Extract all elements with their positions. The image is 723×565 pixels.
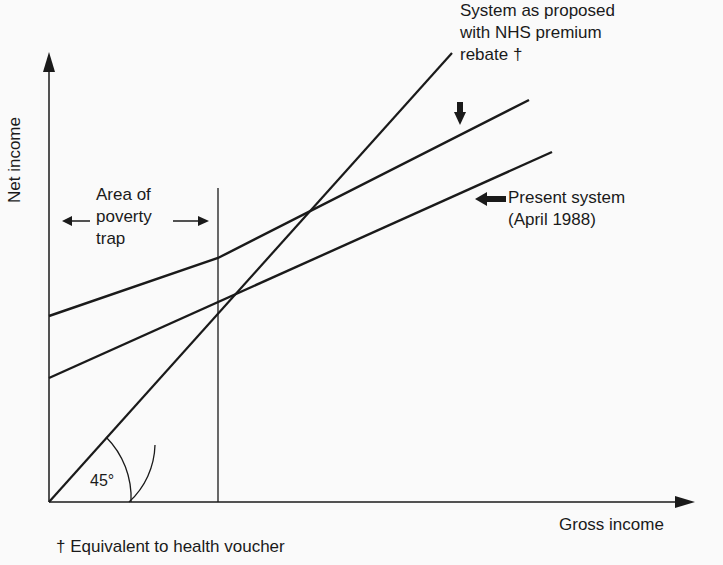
y-axis-label: Net income (4, 83, 26, 203)
x-axis (49, 496, 695, 508)
left-arrow-present-icon (475, 192, 506, 206)
present-label-line-2: (April 1988) (508, 209, 625, 231)
present-system-label: Present system (April 1988) (508, 187, 625, 231)
present-label-line-1: Present system (508, 187, 625, 209)
angle-label: 45° (90, 470, 114, 492)
y-axis-arrow-icon (43, 52, 55, 72)
proposed-label-line-2: with NHS premium (460, 22, 615, 44)
poverty-label-line-1: Area of (96, 184, 152, 206)
poverty-trap-label: Area of poverty trap (96, 184, 152, 250)
down-arrow-icon (454, 102, 466, 125)
y-axis (43, 52, 55, 502)
proposed-label-line-3: rebate † (460, 44, 615, 66)
x-axis-label: Gross income (559, 514, 664, 536)
poverty-label-line-2: poverty (96, 206, 152, 228)
line-45-degree (49, 53, 452, 502)
poverty-label-line-3: trap (96, 228, 152, 250)
proposed-system-label: System as proposed with NHS premium reba… (460, 0, 615, 66)
footnote: † Equivalent to health voucher (56, 536, 285, 558)
proposed-label-line-1: System as proposed (460, 0, 615, 22)
angle-arc (129, 445, 155, 502)
x-axis-arrow-icon (675, 496, 695, 508)
